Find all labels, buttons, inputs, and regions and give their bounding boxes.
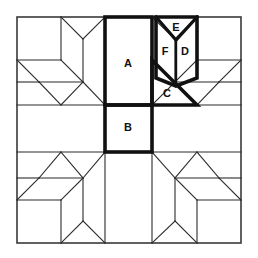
piece-label-A: A — [124, 57, 132, 69]
piece-label-E: E — [172, 21, 179, 33]
piece-label-C: C — [163, 87, 171, 99]
quilt-diagram-stage: A B C D E F — [0, 0, 258, 258]
piece-label-F: F — [162, 45, 169, 57]
piece-label-D: D — [181, 45, 189, 57]
piece-label-B: B — [124, 121, 132, 133]
quilt-block-diagram: A B C D E F — [0, 0, 258, 258]
